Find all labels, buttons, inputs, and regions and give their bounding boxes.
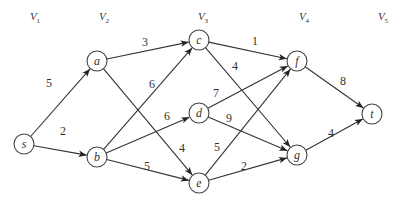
node-label: g xyxy=(294,148,300,162)
node-t: t xyxy=(362,104,382,124)
node-g: g xyxy=(287,145,307,165)
edge-weight-e-g: 2 xyxy=(241,159,247,173)
level-labels: V1V2V3V4V5 xyxy=(30,10,389,25)
node-label: a xyxy=(94,54,100,68)
node-label: b xyxy=(94,150,100,164)
edge-c-f xyxy=(209,42,287,59)
graph-canvas: V1V2V3V4V5 523466514795284 sabcdefgt xyxy=(0,0,395,205)
node-label: e xyxy=(196,176,202,190)
level-label: V2 xyxy=(99,10,110,25)
node-f: f xyxy=(287,51,307,71)
node-s: s xyxy=(14,134,34,154)
edge-weight-d-g: 9 xyxy=(226,111,232,125)
edge-weight-b-e: 5 xyxy=(144,159,150,173)
edge-weight-e-f: 5 xyxy=(214,140,220,154)
node-a: a xyxy=(87,51,107,71)
edge-weight-a-e: 4 xyxy=(179,141,185,155)
edge-weight-a-c: 3 xyxy=(142,35,148,49)
edge-b-c xyxy=(104,48,193,150)
level-label: V5 xyxy=(378,10,389,25)
edge-g-t xyxy=(306,119,363,150)
edge-weight-s-b: 2 xyxy=(60,124,66,138)
node-label: d xyxy=(196,106,203,120)
edge-weight-g-t: 4 xyxy=(328,126,334,140)
edge-f-t xyxy=(305,67,363,108)
level-label: V4 xyxy=(299,10,310,25)
node-label: c xyxy=(196,33,202,47)
edge-weight-c-g: 4 xyxy=(232,59,238,73)
edge-s-b xyxy=(34,146,87,155)
edge-weight-b-d: 6 xyxy=(164,109,170,123)
edge-weight-b-c: 6 xyxy=(149,77,155,91)
node-e: e xyxy=(189,173,209,193)
node-label: s xyxy=(22,137,27,151)
node-c: c xyxy=(189,30,209,50)
level-label: V1 xyxy=(30,10,41,25)
node-d: d xyxy=(189,103,209,123)
edge-e-g xyxy=(209,158,287,180)
edge-weight-c-f: 1 xyxy=(252,34,258,48)
edge-weight-f-t: 8 xyxy=(340,74,346,88)
nodes: sabcdefgt xyxy=(14,30,382,193)
level-label: V3 xyxy=(198,10,209,25)
edge-weight-s-a: 5 xyxy=(46,76,52,90)
node-b: b xyxy=(87,147,107,167)
edge-weight-d-f: 7 xyxy=(213,86,219,100)
